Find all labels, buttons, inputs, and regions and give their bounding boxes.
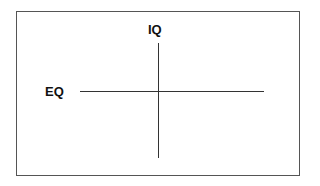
horizontal-axis-eq [80, 91, 264, 92]
iq-axis-label: IQ [148, 23, 162, 36]
eq-axis-label: EQ [45, 85, 64, 98]
vertical-axis-iq [158, 43, 159, 158]
